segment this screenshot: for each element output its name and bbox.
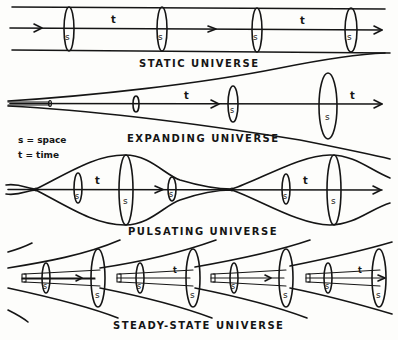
space-symbol: s [75, 192, 79, 201]
panel-title-steady-state: STEADY-STATE UNIVERSE [113, 320, 284, 331]
static-time-axis [10, 28, 382, 30]
space-symbol: s [230, 106, 234, 115]
time-symbol: t [173, 266, 177, 275]
space-symbol: s [231, 282, 235, 291]
space-symbol: s [190, 290, 195, 300]
time-symbol: t [184, 90, 189, 101]
time-symbol: t [358, 266, 362, 275]
space-symbol: s [376, 290, 381, 300]
space-symbol: s [347, 32, 352, 42]
steady-cone [211, 249, 293, 307]
cosmology-diagram: s s s s t t STATIC UNIVERSE s s t t EXPA… [0, 0, 398, 340]
steady-boundary [8, 310, 28, 322]
space-symbol: s [65, 32, 70, 42]
expanding-time-axis [10, 104, 382, 105]
steady-state-universe-drawing [8, 240, 392, 322]
steady-boundary [8, 240, 120, 268]
space-section-ellipse [319, 73, 337, 139]
space-symbol: s [331, 196, 336, 206]
panel-title-pulsating: PULSATING UNIVERSE [128, 226, 278, 237]
space-symbol: s [43, 282, 47, 291]
space-symbol: s [123, 196, 128, 206]
space-symbol: s [169, 190, 173, 199]
static-universe-drawing [10, 7, 390, 53]
panel-title-static: STATIC UNIVERSE [139, 58, 260, 69]
pulsating-time-axis [8, 190, 382, 191]
space-symbol: s [253, 32, 258, 42]
space-symbol: s [158, 32, 163, 42]
steady-cone [117, 249, 200, 307]
pulsating-universe-drawing [6, 155, 390, 225]
time-symbol: t [303, 175, 308, 186]
steady-boundary [8, 243, 32, 252]
legend: s = space t = time [18, 133, 66, 163]
space-symbol: s [137, 282, 141, 291]
steady-cone [306, 249, 386, 307]
diagram-drawing [0, 0, 398, 340]
legend-time: t = time [18, 148, 66, 163]
steady-boundary [290, 242, 392, 266]
time-symbol: t [350, 90, 355, 101]
space-symbol: s [325, 282, 329, 291]
space-symbol: s [283, 290, 288, 300]
time-symbol: t [111, 14, 116, 25]
panel-title-expanding: EXPANDING UNIVERSE [127, 133, 280, 144]
steady-boundary [100, 288, 212, 318]
time-symbol: t [300, 15, 305, 26]
time-symbol: t [95, 175, 100, 186]
space-symbol: s [283, 192, 287, 201]
legend-space: s = space [18, 133, 66, 148]
space-symbol: s [325, 112, 330, 122]
space-symbol: s [95, 290, 100, 300]
